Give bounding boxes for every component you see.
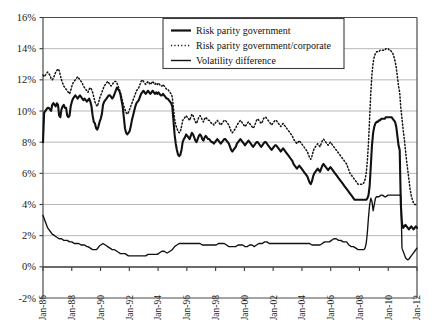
- y-axis-tick-label: 16%: [17, 12, 37, 23]
- y-axis-tick-label: 0%: [22, 261, 36, 272]
- series-line: [43, 88, 417, 230]
- y-axis-tick-label: 6%: [22, 168, 36, 179]
- y-axis-tick-label: 4%: [22, 199, 36, 210]
- y-axis-tick-label: 2%: [22, 230, 36, 241]
- legend-label: Volatility difference: [196, 55, 276, 66]
- line-chart: 16%14%12%10%8%6%4%2%0%-2% Jan-86Jan-88Ja…: [0, 0, 437, 322]
- y-axis-labels: 16%14%12%10%8%6%4%2%0%-2%: [17, 12, 43, 304]
- y-axis-tick-label: 10%: [17, 106, 37, 117]
- chart-container: 16%14%12%10%8%6%4%2%0%-2% Jan-86Jan-88Ja…: [0, 0, 437, 322]
- y-axis-tick-label: -2%: [19, 293, 37, 304]
- data-series: [43, 49, 417, 260]
- legend-label: Risk parity government/corporate: [196, 40, 332, 51]
- y-axis-tick-label: 14%: [17, 43, 37, 54]
- legend-label: Risk parity government: [196, 25, 291, 36]
- gridlines: [43, 49, 417, 236]
- chart-legend: Risk parity governmentRisk parity govern…: [163, 19, 344, 69]
- y-axis-tick-label: 12%: [17, 74, 37, 85]
- y-axis-tick-label: 8%: [22, 137, 36, 148]
